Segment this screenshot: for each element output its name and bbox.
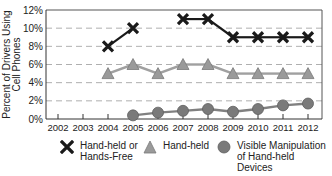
y-axis-label: Percent of Drivers UsingCell Phones	[1, 10, 22, 118]
series-x	[103, 14, 313, 51]
y-tick-label: 10%	[23, 23, 43, 34]
circle-marker-icon	[153, 107, 164, 118]
legend-label: Hand-held or Hands-Free	[80, 140, 138, 162]
circle-marker-icon	[228, 106, 239, 117]
legend-label: Visible Manipulation of Hand-held Device…	[237, 140, 332, 173]
circle-marker-icon	[303, 98, 314, 109]
circle-marker-icon	[178, 105, 189, 116]
data-series	[102, 14, 314, 121]
x-tick-label: 2007	[172, 122, 193, 133]
x-tick-label: 2004	[97, 122, 118, 133]
x-tick-label: 2005	[122, 122, 143, 133]
triangle-marker-icon	[127, 59, 139, 70]
x-tick-label: 2009	[222, 122, 243, 133]
circle-marker-icon	[278, 100, 289, 111]
x-tick-label: 2010	[247, 122, 268, 133]
line-chart: 0%2%4%6%8%10%12% 20022003200420052006200…	[0, 0, 332, 140]
legend-item-hand-held: Hand-held	[143, 140, 209, 154]
legend-item-hand-held-or-hands-free: Hand-held or Hands-Free	[60, 140, 138, 162]
x-tick-label: 2008	[197, 122, 218, 133]
x-tick-label: 2002	[47, 122, 68, 133]
circle-marker-icon	[128, 110, 139, 121]
y-tick-label: 4%	[29, 77, 44, 88]
series-circle	[128, 98, 314, 121]
x-tick-label: 2012	[297, 122, 318, 133]
y-tick-label: 12%	[23, 5, 43, 16]
x-marker-icon	[60, 140, 74, 154]
y-axis-title-line: Cell Phones	[11, 38, 22, 92]
x-tick-label: 2011	[273, 122, 293, 133]
legend: Hand-held or Hands-Free Hand-held Visibl…	[0, 140, 332, 176]
x-tick-label: 2003	[72, 122, 93, 133]
legend-label: Hand-held	[163, 140, 209, 151]
circle-marker-icon	[253, 104, 264, 115]
y-tick-label: 0%	[29, 114, 44, 125]
x-axis-ticks: 2002200320042005200620072008200920102011…	[47, 114, 318, 133]
y-tick-label: 2%	[29, 95, 44, 106]
y-tick-label: 6%	[29, 59, 44, 70]
series-triangle	[102, 59, 314, 79]
circle-marker-icon	[217, 140, 231, 154]
y-tick-label: 8%	[29, 41, 44, 52]
x-tick-label: 2006	[147, 122, 168, 133]
triangle-marker-icon	[143, 140, 157, 154]
legend-item-visible-manipulation: Visible Manipulation of Hand-held Device…	[217, 140, 332, 173]
circle-marker-icon	[203, 104, 214, 115]
y-axis-ticks: 0%2%4%6%8%10%12%	[23, 5, 43, 125]
